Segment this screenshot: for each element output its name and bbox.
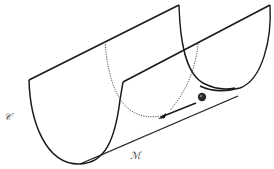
manifold-label: ℳ — [130, 151, 141, 161]
front-top-edge — [29, 5, 179, 80]
ball-icon — [198, 93, 206, 101]
ball-highlight — [200, 95, 203, 98]
hidden-cross-section-right — [170, 44, 198, 110]
back-cross-section-left — [179, 5, 235, 89]
back-cross-section-right — [200, 5, 270, 91]
arrow-head-icon — [158, 113, 166, 119]
trough-diagram — [0, 0, 274, 169]
motion-arrow — [161, 103, 196, 117]
surface-label: 𝒞 — [4, 112, 11, 122]
inner-top-edge — [123, 5, 270, 82]
hidden-cross-section — [105, 42, 170, 117]
valley-line — [80, 96, 238, 164]
